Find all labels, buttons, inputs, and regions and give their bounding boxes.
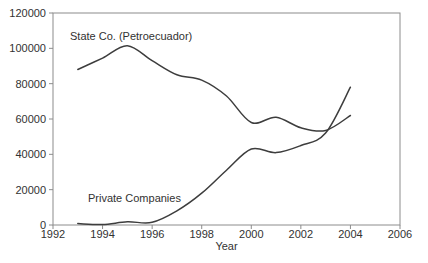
- x-tick-label: 2004: [338, 228, 362, 240]
- line-chart: 0200004000060000800001000001200001992199…: [0, 0, 428, 263]
- y-tick-label: 60000: [15, 113, 46, 125]
- x-axis-title: Year: [215, 240, 238, 252]
- x-tick-label: 1992: [41, 228, 65, 240]
- y-tick-label: 40000: [15, 148, 46, 160]
- y-tick-label: 20000: [15, 184, 46, 196]
- x-tick-label: 2000: [239, 228, 263, 240]
- series-label-private: Private Companies: [88, 192, 181, 204]
- y-tick-label: 80000: [15, 78, 46, 90]
- x-tick-label: 1998: [189, 228, 213, 240]
- y-tick-label: 100000: [9, 42, 46, 54]
- x-tick-label: 2002: [289, 228, 313, 240]
- y-tick-label: 120000: [9, 7, 46, 19]
- chart-figure: 0200004000060000800001000001200001992199…: [0, 0, 428, 263]
- series-label-state: State Co. (Petroecuador): [70, 30, 192, 42]
- x-tick-label: 1996: [140, 228, 164, 240]
- x-tick-label: 2006: [388, 228, 412, 240]
- x-tick-label: 1994: [90, 228, 114, 240]
- series-state-line: [78, 46, 351, 132]
